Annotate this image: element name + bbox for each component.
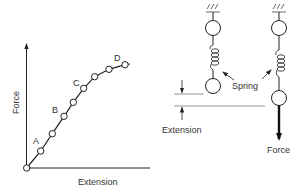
bottom-mass: [206, 79, 221, 94]
data-point: [24, 165, 30, 171]
unloaded-spring-assembly: [206, 4, 221, 94]
point-label-d: D: [114, 53, 121, 63]
data-point: [49, 131, 55, 137]
bottom-mass: [272, 91, 287, 106]
spring-illustration: Spring Extension Force: [162, 4, 290, 155]
top-mass: [206, 21, 221, 36]
y-axis-label: Force: [11, 91, 21, 114]
data-point: [122, 61, 128, 67]
point-label-b: B: [52, 105, 58, 115]
force-extension-graph: A B C D Force Extension: [11, 44, 150, 187]
spring-label: Spring: [232, 81, 258, 91]
data-point: [70, 99, 76, 105]
data-point: [106, 66, 112, 72]
force-extension-diagram: A B C D Force Extension: [0, 0, 295, 192]
loaded-spring-assembly: [272, 4, 287, 139]
data-point: [81, 85, 87, 91]
spring-coil-icon: [210, 45, 219, 70]
data-point: [92, 74, 98, 80]
top-mass: [272, 21, 287, 36]
spring-pointer-right: [262, 70, 271, 79]
force-label: Force: [267, 145, 290, 155]
point-label-a: A: [33, 136, 39, 146]
point-label-c: C: [73, 78, 80, 88]
ceiling-hatch-icon: [206, 4, 220, 12]
extension-label: Extension: [162, 125, 202, 135]
x-axis-label: Extension: [78, 177, 118, 187]
data-point: [38, 148, 44, 154]
data-point: [61, 113, 67, 119]
ceiling-hatch-icon: [272, 4, 286, 12]
spring-coil-icon: [276, 50, 285, 77]
spring-pointer-left: [223, 72, 234, 80]
